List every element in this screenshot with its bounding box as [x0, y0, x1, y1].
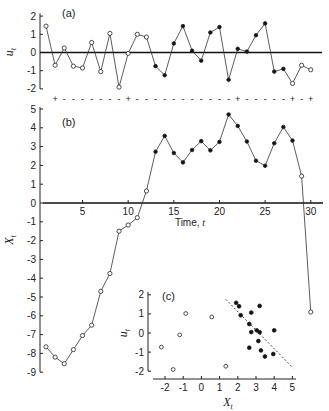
filled-point — [172, 151, 176, 155]
open-point — [53, 355, 57, 359]
x-tick-label: -1 — [179, 382, 188, 393]
open-point — [290, 81, 294, 85]
sign-row: +-------+-----------+-----+-+ — [52, 95, 313, 105]
minus-sign: - — [162, 95, 167, 105]
open-point — [108, 271, 112, 275]
y-tick-label: -7 — [27, 329, 36, 340]
y-tick-label: 2 — [30, 160, 36, 171]
filled-point — [163, 73, 167, 77]
panel-c-scatter: 210-1-2-2-1012345Xtut(c) — [116, 286, 296, 411]
open-point — [300, 63, 304, 67]
minus-sign: - — [62, 95, 67, 105]
minus-sign: - — [71, 95, 76, 105]
filled-point — [227, 78, 231, 82]
minus-sign: - — [107, 95, 112, 105]
filled-point — [239, 313, 243, 317]
filled-point — [199, 139, 203, 143]
filled-point — [249, 311, 253, 315]
y-tick-label: 0 — [30, 47, 36, 58]
x-tick-label: 30 — [305, 206, 317, 217]
y-tick-label: -2 — [27, 83, 36, 94]
filled-point — [254, 33, 258, 37]
y-tick-label: -5 — [27, 292, 36, 303]
minus-sign: - — [171, 95, 176, 105]
plus-sign: + — [52, 95, 57, 105]
plus-sign: + — [125, 95, 130, 105]
filled-point — [245, 50, 249, 54]
x-tick-label: 5 — [80, 206, 86, 217]
filled-point — [254, 159, 258, 163]
series-line — [46, 23, 311, 87]
filled-point — [249, 330, 253, 334]
minus-sign: - — [262, 95, 267, 105]
filled-point — [154, 150, 158, 154]
y-axis-label: ut — [2, 47, 18, 56]
y-tick-label: -6 — [27, 310, 36, 321]
y-tick-label: -3 — [27, 254, 36, 265]
panel-label-c: (c) — [162, 290, 175, 302]
y-tick-label: 1 — [30, 29, 36, 40]
minus-sign: - — [116, 95, 121, 105]
open-point — [144, 35, 148, 39]
panel-a-ut-series: 210-1-2ut(a) — [2, 7, 322, 94]
open-point — [117, 85, 121, 89]
filled-point — [291, 139, 295, 143]
open-point — [108, 31, 112, 35]
filled-point — [263, 164, 267, 168]
filled-point — [263, 22, 267, 26]
y-tick-label: -2 — [135, 366, 144, 377]
filled-point — [236, 47, 240, 51]
filled-point — [237, 304, 241, 308]
open-point — [184, 312, 188, 316]
x-tick-label: 3 — [253, 382, 259, 393]
open-point — [44, 345, 48, 349]
y-tick-label: 1 — [138, 308, 144, 319]
minus-sign: - — [226, 95, 231, 105]
open-point — [62, 362, 66, 366]
minus-sign: - — [244, 95, 249, 105]
y-tick-label: 5 — [30, 104, 36, 115]
x-tick-label: -2 — [161, 382, 170, 393]
y-tick-label: -2 — [27, 235, 36, 246]
minus-sign: - — [180, 95, 185, 105]
open-point — [171, 368, 175, 372]
filled-point — [263, 355, 267, 359]
x-tick-label: 20 — [214, 206, 226, 217]
plus-sign: + — [308, 95, 313, 105]
open-point — [159, 345, 163, 349]
open-point — [44, 24, 48, 28]
filled-point — [282, 67, 286, 71]
filled-point — [272, 70, 276, 74]
x-tick-label: 0 — [199, 382, 205, 393]
minus-sign: - — [135, 95, 140, 105]
filled-point — [181, 24, 185, 28]
filled-point — [256, 339, 260, 343]
filled-point — [163, 134, 167, 138]
y-tick-label: 1 — [30, 179, 36, 190]
filled-point — [209, 149, 213, 153]
open-point — [300, 174, 304, 178]
panel-label-a: (a) — [62, 7, 75, 19]
open-point — [99, 289, 103, 293]
minus-sign: - — [98, 95, 103, 105]
open-point — [135, 32, 139, 36]
open-point — [90, 40, 94, 44]
minus-sign: - — [144, 95, 149, 105]
x-tick-label: 10 — [123, 206, 135, 217]
panel-label-b: (b) — [62, 116, 75, 128]
minus-sign: - — [217, 95, 222, 105]
filled-point — [258, 330, 262, 334]
open-point — [99, 70, 103, 74]
filled-point — [245, 140, 249, 144]
minus-sign: - — [299, 95, 304, 105]
open-point — [90, 323, 94, 327]
y-tick-label: 3 — [30, 141, 36, 152]
y-tick-label: 2 — [30, 11, 36, 22]
filled-point — [227, 113, 231, 117]
open-point — [224, 364, 228, 368]
minus-sign: - — [199, 95, 204, 105]
open-point — [71, 348, 75, 352]
filled-point — [181, 161, 185, 165]
x-tick-label: 5 — [290, 382, 296, 393]
open-point — [62, 46, 66, 50]
